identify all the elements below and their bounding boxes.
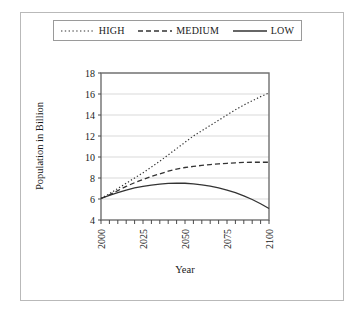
chart-gridlines [101, 73, 269, 199]
x-axis: 20002025205020752100 [96, 220, 275, 249]
plot-border [101, 73, 269, 220]
population-projection-line-chart: 4681012141618 20002025205020752100 Year … [21, 13, 345, 302]
y-axis-title: Population in Billion [34, 101, 45, 190]
y-tick-label: 4 [90, 215, 95, 226]
y-tick-label: 8 [90, 173, 95, 184]
x-tick-label: 2025 [138, 229, 149, 249]
figure-frame: HIGH MEDIUM LOW [20, 12, 344, 301]
y-tick-label: 12 [85, 131, 95, 142]
y-tick-label: 14 [85, 110, 95, 121]
y-tick-label: 18 [85, 68, 95, 79]
y-tick-label: 10 [85, 152, 95, 163]
x-axis-title: Year [175, 264, 195, 275]
x-tick-label: 2000 [96, 229, 107, 249]
x-tick-label: 2100 [264, 229, 275, 249]
chart-plot-area: 4681012141618 20002025205020752100 Year … [21, 13, 345, 302]
series-line-medium [101, 162, 269, 198]
chart-series-layer [101, 93, 269, 209]
x-tick-label: 2050 [180, 229, 191, 249]
y-tick-label: 16 [85, 89, 95, 100]
y-axis: 4681012141618 [85, 68, 101, 226]
y-tick-label: 6 [90, 194, 95, 205]
x-tick-label: 2075 [222, 229, 233, 249]
